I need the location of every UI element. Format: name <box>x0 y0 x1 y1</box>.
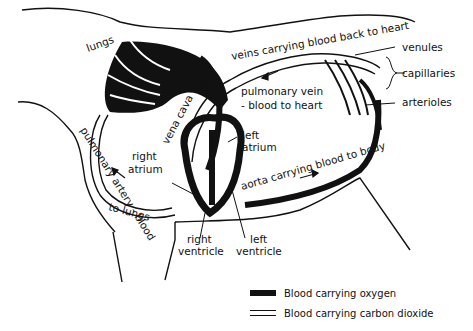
label-veins: veins carrying blood back to heart <box>230 19 409 62</box>
circulation-diagram: lungs veins carrying blood back to heart… <box>0 0 473 331</box>
label-venules: venules <box>402 41 443 53</box>
double-line-swatch-icon <box>250 310 276 316</box>
label-left-ventricle-1: left <box>250 233 267 245</box>
label-left-atrium-2: atrium <box>242 141 277 153</box>
label-right-ventricle-2: ventricle <box>178 245 224 257</box>
label-right-atrium-1: right <box>132 150 157 162</box>
legend-label: Blood carrying oxygen <box>284 288 396 299</box>
label-right-ventricle-1: right <box>187 233 212 245</box>
label-lungs: lungs <box>85 33 116 54</box>
label-left-atrium-1: left <box>242 129 259 141</box>
label-pulmonary-artery-1: pulmonary artery - blood <box>78 125 158 243</box>
label-pulmonary-vein-2: - blood to heart <box>241 99 322 111</box>
heart <box>184 117 241 213</box>
legend: Blood carrying oxygen Blood carrying car… <box>250 283 434 323</box>
label-left-ventricle-2: ventricle <box>236 245 282 257</box>
solid-line-swatch-icon <box>250 290 276 296</box>
legend-item-oxygen: Blood carrying oxygen <box>250 283 434 303</box>
legend-item-carbon-dioxide: Blood carrying carbon dioxide <box>250 303 434 323</box>
label-capillaries: capillaries <box>402 67 455 79</box>
oxygenated-vessels <box>200 58 380 205</box>
label-pulmonary-vein-1: pulmonary vein <box>241 85 323 97</box>
label-right-atrium-2: atrium <box>128 163 163 175</box>
legend-label: Blood carrying carbon dioxide <box>284 308 434 319</box>
lungs <box>105 40 228 113</box>
label-arterioles: arterioles <box>402 96 452 108</box>
